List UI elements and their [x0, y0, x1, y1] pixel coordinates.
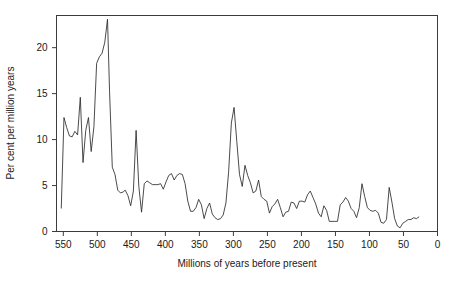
x-tick-label: 200: [293, 239, 310, 250]
x-tick-label: 100: [361, 239, 378, 250]
x-tick-label: 550: [55, 239, 72, 250]
x-tick-label: 0: [435, 239, 441, 250]
plot-frame: [57, 16, 438, 232]
x-tick-label: 450: [123, 239, 140, 250]
x-tick-label: 50: [398, 239, 410, 250]
y-tick-label: 15: [36, 88, 48, 99]
y-axis-ticks: 05101520: [36, 42, 56, 237]
extinction-rate-line-chart: 550500450400350300250200150100500 051015…: [0, 0, 455, 282]
chart-figure: 550500450400350300250200150100500 051015…: [0, 0, 455, 282]
x-tick-label: 250: [259, 239, 276, 250]
x-axis-ticks: 550500450400350300250200150100500: [55, 232, 441, 250]
x-tick-label: 400: [157, 239, 174, 250]
extinction-rate-series: [61, 19, 419, 228]
y-tick-label: 0: [42, 226, 48, 237]
y-tick-label: 5: [42, 180, 48, 191]
y-tick-label: 20: [36, 42, 48, 53]
x-tick-label: 350: [191, 239, 208, 250]
x-tick-label: 150: [327, 239, 344, 250]
x-tick-label: 500: [89, 239, 106, 250]
y-tick-label: 10: [36, 134, 48, 145]
y-axis-title: Per cent per million years: [5, 67, 16, 180]
x-tick-label: 300: [225, 239, 242, 250]
x-axis-title: Millions of years before present: [178, 258, 317, 269]
